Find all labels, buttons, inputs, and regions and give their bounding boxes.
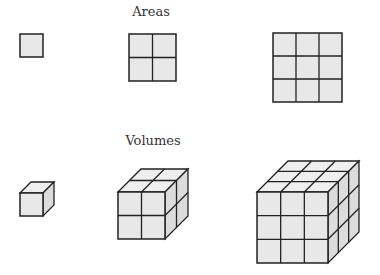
- area-square-2: [129, 34, 176, 81]
- volume-cube-2: [118, 169, 188, 239]
- volume-cube-3: [257, 161, 359, 263]
- area-square-3: [273, 33, 342, 102]
- area-square-1: [20, 34, 43, 57]
- areas-volumes-diagram: [0, 0, 380, 275]
- volume-cube-1: [20, 182, 54, 216]
